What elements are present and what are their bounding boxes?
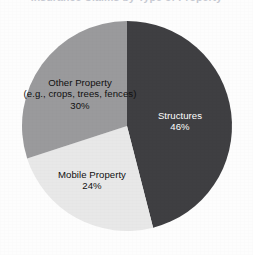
pie-label-other-property-name: Other Property <box>48 77 112 88</box>
pie-label-mobile-property-pct: 24% <box>34 180 150 191</box>
pie-label-mobile-property-name: Mobile Property <box>58 169 126 180</box>
pie-label-other-property-sublabel: (e.g., crops, trees, fences) <box>9 88 151 99</box>
pie-label-other-property: Other Property (e.g., crops, trees, fenc… <box>9 77 151 111</box>
pie-label-other-property-pct: 30% <box>9 100 151 111</box>
pie-label-mobile-property: Mobile Property 24% <box>34 169 150 192</box>
pie-label-structures-pct: 46% <box>139 121 221 132</box>
pie-chart-figure: Insurance Claims by Type of Property Str… <box>0 0 253 255</box>
pie-label-structures-name: Structures <box>158 110 202 121</box>
pie-label-structures: Structures 46% <box>139 110 221 133</box>
